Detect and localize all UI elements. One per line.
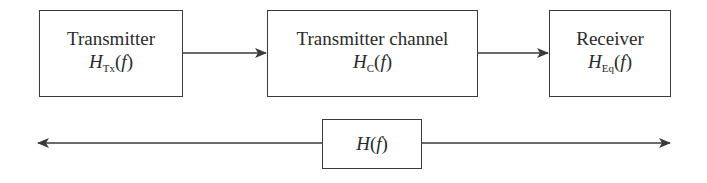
transmitter-block: Transmitter HTx(f) bbox=[39, 10, 183, 97]
receiver-transfer-function: HEq(f) bbox=[588, 50, 632, 80]
receiver-block: Receiver HEq(f) bbox=[549, 10, 671, 97]
channel-block: Transmitter channel HC(f) bbox=[267, 10, 478, 97]
transmitter-transfer-function: HTx(f) bbox=[89, 50, 133, 80]
channel-transfer-function: HC(f) bbox=[353, 50, 392, 80]
subscript: Eq bbox=[602, 62, 614, 74]
subscript: Tx bbox=[103, 62, 115, 74]
subscript: C bbox=[367, 62, 374, 74]
channel-title: Transmitter channel bbox=[297, 28, 449, 50]
transmitter-title: Transmitter bbox=[67, 28, 155, 50]
symbol: H bbox=[356, 133, 370, 154]
receiver-title: Receiver bbox=[576, 28, 644, 50]
symbol: H bbox=[89, 51, 103, 72]
symbol: H bbox=[588, 51, 602, 72]
symbol: H bbox=[353, 51, 367, 72]
overall-transfer-function: H(f) bbox=[356, 132, 388, 156]
overall-transfer-block: H(f) bbox=[322, 119, 422, 169]
